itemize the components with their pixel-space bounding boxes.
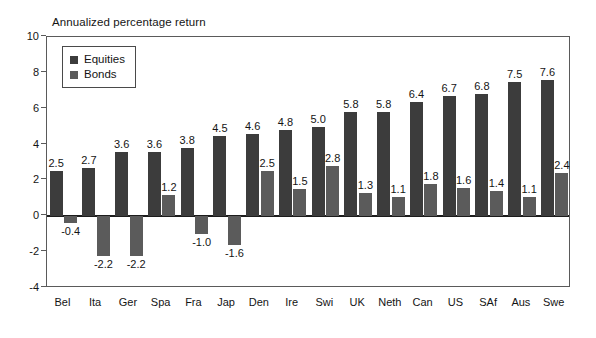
bar-group: 6.41.8 [407,37,440,286]
bar-bonds [293,189,306,216]
y-axis-tick: 0 [0,209,46,221]
bar-value-label: 3.6 [139,138,169,150]
legend-item-bonds: Bonds [70,67,125,82]
bar-bonds [424,184,437,216]
bar-value-label: 4.5 [205,122,235,134]
bar-bonds [130,216,143,255]
legend-swatch-icon [70,71,78,79]
bar-group: 3.61.2 [145,37,178,286]
legend: Equities Bonds [62,46,136,88]
bar-group: 3.8-1.0 [178,37,211,286]
bar-group: 4.5-1.6 [211,37,244,286]
bar-value-label: 4.6 [238,120,268,132]
bar-value-label: 6.4 [401,88,431,100]
bar-equities [344,112,357,216]
bar-equities [475,94,488,216]
y-axis-tick-label: 6 [33,102,46,114]
bar-bonds [359,193,372,216]
bar-value-label: 7.5 [500,68,530,80]
bar-bonds [64,216,77,223]
y-axis-tick-label: 0 [33,209,46,221]
x-axis-tick-label: Swe [534,295,574,309]
bar-bonds [195,216,208,234]
y-axis-tick-label: 2 [33,173,46,185]
legend-item-equities: Equities [70,52,125,67]
bar-group: 5.02.8 [309,37,342,286]
bar-value-label: 3.6 [107,138,137,150]
legend-label: Equities [84,53,125,66]
bar-bonds [523,197,536,217]
y-axis-tick: 10 [0,30,46,42]
bar-equities [115,152,128,217]
y-axis-tick: 8 [0,66,46,78]
bar-bonds [162,195,175,217]
y-axis-tick-label: 10 [27,30,46,42]
bar-value-label: 5.0 [303,113,333,125]
chart-figure: Annualized percentage return 1086420-2-4… [0,0,596,338]
bar-value-label: 2.7 [74,154,104,166]
bar-value-label: 5.8 [336,98,366,110]
y-axis-tick: 2 [0,173,46,185]
bar-equities [50,171,63,216]
bar-equities [279,130,292,216]
bar-group: 4.81.5 [276,37,309,286]
legend-swatch-icon [70,56,78,64]
bar-bonds [392,197,405,217]
bar-equities [312,127,325,217]
bar-equities [82,168,95,216]
bar-value-label: 2.5 [41,157,71,169]
bar-value-label: 4.8 [270,116,300,128]
legend-label: Bonds [84,68,117,81]
bar-bonds [490,191,503,216]
y-axis-tick-label: 8 [33,66,46,78]
bar-group: 5.81.3 [342,37,375,286]
bar-equities [246,134,259,216]
bar-value-label: 6.8 [467,80,497,92]
bar-equities [541,80,554,216]
bar-bonds [97,216,110,255]
y-axis-tick: 4 [0,138,46,150]
bar-group: 6.71.6 [440,37,473,286]
bar-bonds [457,188,470,217]
bar-value-label: 2.4 [547,159,577,171]
bar-equities [443,96,456,216]
bar-bonds [228,216,241,245]
y-axis-tick-label: -4 [29,281,46,293]
bar-equities [213,136,226,217]
y-axis-tick: 6 [0,102,46,114]
bar-value-label: 7.6 [532,66,562,78]
bar-bonds [261,171,274,216]
bar-value-label: 6.7 [434,82,464,94]
bar-value-label: 5.8 [369,98,399,110]
bar-group: 4.62.5 [244,37,277,286]
bar-equities [508,82,521,216]
bar-group: 5.81.1 [375,37,408,286]
y-axis-tick-label: -2 [29,245,46,257]
y-axis-tick: -2 [0,245,46,257]
bar-bonds [326,166,339,216]
y-axis-tick-label: 4 [33,138,46,150]
bar-equities [181,148,194,216]
bar-bonds [555,173,568,216]
bar-value-label: 3.8 [172,134,202,146]
y-axis: 1086420-2-4 [0,36,46,287]
bar-equities [410,102,423,217]
y-axis-tick: -4 [0,281,46,293]
bar-equities [377,112,390,216]
x-axis: BelItaGerSpaFraJapDenIreSwiUKNethCanUSSA… [46,295,570,311]
bar-group: 7.62.4 [538,37,571,286]
page-title: Annualized percentage return [52,16,206,29]
